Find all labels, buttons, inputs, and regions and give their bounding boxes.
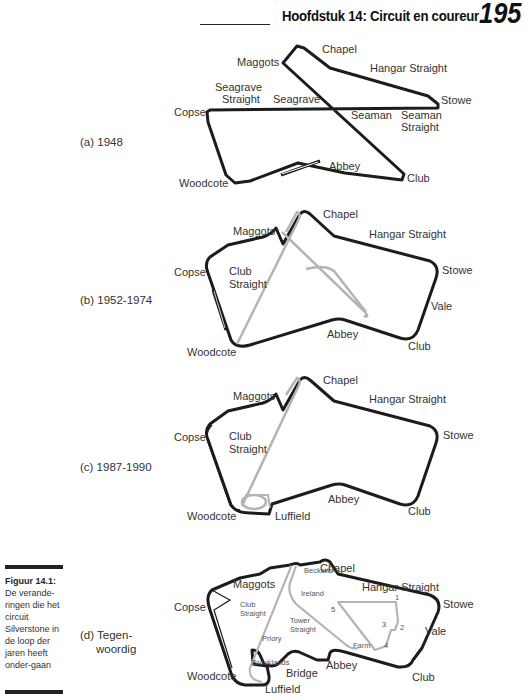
corner-label: Maggots <box>233 578 276 590</box>
corner-label: Abbey <box>329 160 361 172</box>
corner-label: Seagrave <box>273 93 320 105</box>
corner-label: Chapel <box>322 43 357 55</box>
turn-number: 1 <box>395 593 399 602</box>
turn-number: 4 <box>384 641 388 650</box>
corner-label: Farm <box>353 641 371 650</box>
corner-label: Club <box>407 172 430 184</box>
corner-label: Abbey <box>328 493 360 505</box>
corner-label: Straight <box>229 278 267 290</box>
corner-label: Luffield <box>265 683 300 695</box>
corner-label: Straight <box>290 625 317 634</box>
corner-label: Club <box>408 505 431 517</box>
corner-label: Woodcote <box>187 510 236 522</box>
corner-label: Copse <box>174 431 206 443</box>
corner-label: Seaman <box>401 109 442 121</box>
corner-label: Woodcote <box>187 670 236 682</box>
corner-label: Club <box>408 340 431 352</box>
corner-label: Straight <box>401 121 439 133</box>
corner-label: Bridge <box>286 667 318 679</box>
turn-number: 3 <box>382 620 386 629</box>
corner-label: Copse <box>174 266 206 278</box>
corner-label: Becketts <box>304 566 333 575</box>
corner-label: Priory <box>262 634 282 643</box>
corner-label: Copse <box>174 106 206 118</box>
corner-label: Woodcote <box>187 346 236 358</box>
corner-label: Hangar Straight <box>369 393 446 405</box>
corner-label: Vale <box>431 300 452 312</box>
turn-number: 5 <box>331 605 335 614</box>
corner-label: Chapel <box>323 374 358 386</box>
corner-label: Seaman <box>351 109 392 121</box>
corner-label: Abbey <box>326 659 358 671</box>
corner-label: Stowe <box>441 94 472 106</box>
corner-label: Vale <box>425 625 446 637</box>
corner-label: Chapel <box>323 208 358 220</box>
corner-label: Hangar Straight <box>370 62 447 74</box>
corner-label: Maggots <box>233 390 276 402</box>
corner-label: Stowe <box>442 264 473 276</box>
corner-label: Luffield <box>275 510 310 522</box>
corner-label: Maggots <box>233 225 276 237</box>
corner-label: Abbey <box>327 328 359 340</box>
corner-label: Straight <box>229 443 267 455</box>
corner-label: Hangar Straight <box>362 581 439 593</box>
corner-label: Club <box>229 265 252 277</box>
corner-label: Stowe <box>443 598 474 610</box>
circuit-map-1952-1974: Chapel Maggots Hangar Straight Stowe Cop… <box>174 208 473 358</box>
corner-label: Ireland <box>301 589 324 598</box>
corner-label: Hangar Straight <box>369 228 446 240</box>
corner-label: Woodcote <box>179 177 228 189</box>
circuit-map-present: Chapel Maggots Hangar Straight Becketts … <box>174 560 474 695</box>
corner-label: Straight <box>222 93 260 105</box>
corner-label: Club <box>229 430 252 442</box>
corner-label: Copse <box>174 601 206 613</box>
corner-label: Stowe <box>443 429 474 441</box>
circuit-map-1948: Maggots Chapel Hangar Straight Seagrave … <box>174 43 472 189</box>
corner-label: Tower <box>290 616 311 625</box>
corner-label: Maggots <box>237 56 280 68</box>
corner-label: Club <box>240 600 255 609</box>
turn-number: 2 <box>400 623 404 632</box>
corner-label: Club <box>412 671 435 683</box>
circuit-map-1987-1990: Chapel Maggots Hangar Straight Stowe Cop… <box>174 374 474 522</box>
corner-label: Straight <box>240 609 267 618</box>
circuit-maps: Maggots Chapel Hangar Straight Seagrave … <box>0 0 531 700</box>
corner-label: Brooklands <box>252 658 290 667</box>
corner-label: Seagrave <box>215 81 262 93</box>
